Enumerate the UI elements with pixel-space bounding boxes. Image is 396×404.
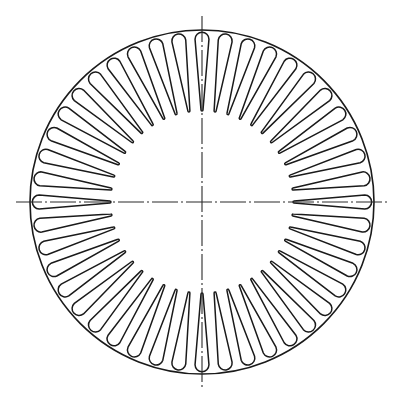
drawing-canvas <box>0 0 396 404</box>
lamination-drawing <box>0 0 396 404</box>
